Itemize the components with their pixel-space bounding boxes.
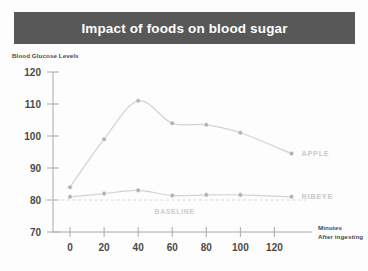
x-axis-tick-label: 120 [266, 242, 283, 253]
data-point [238, 131, 243, 136]
series-apple [68, 99, 294, 190]
x-axis-tick-label: 20 [99, 242, 111, 253]
data-point [170, 193, 175, 198]
page-title: Impact of foods on blood sugar [81, 21, 287, 36]
data-point [136, 99, 141, 104]
data-series-group [68, 99, 294, 200]
x-axis-title-line1: Minutes [318, 224, 343, 231]
y-axis-tick-label: 100 [24, 131, 41, 142]
data-point [170, 121, 175, 126]
data-point [102, 137, 107, 142]
y-axis-title: Blood Glucose Levels [12, 52, 79, 59]
series-ribeye [68, 188, 294, 199]
data-point [68, 185, 73, 190]
y-axis-tick-label: 120 [24, 67, 41, 78]
data-point [289, 151, 294, 156]
data-point [238, 193, 243, 198]
series-line [70, 101, 291, 188]
line-chart: 708090100110120020406080100120 Blood Glu… [0, 44, 368, 271]
x-axis-tick-label: 80 [201, 242, 213, 253]
x-axis-tick-label: 100 [232, 242, 249, 253]
data-point [102, 191, 107, 196]
series-label-ribeye: RIBEYE [301, 192, 333, 201]
data-point [204, 123, 209, 128]
x-axis-tick-label: 60 [167, 242, 179, 253]
y-axis-tick-label: 110 [25, 99, 42, 110]
chart-plot-area: 708090100110120020406080100120 Blood Glu… [0, 44, 368, 271]
data-point [68, 195, 73, 200]
data-point [136, 188, 141, 193]
series-label-apple: APPLE [301, 149, 329, 158]
data-point [204, 193, 209, 198]
data-point [289, 195, 294, 200]
baseline-label: BASELINE [155, 208, 195, 215]
x-axis-tick-label: 40 [133, 242, 145, 253]
x-axis-tick-label: 0 [67, 242, 73, 253]
chart-card: Impact of foods on blood sugar 708090100… [0, 0, 368, 271]
chart-labels: Blood Glucose LevelsMinutesAfter ingesti… [12, 52, 363, 240]
chart-axes: 708090100110120020406080100120 [24, 67, 312, 253]
y-axis-tick-label: 90 [30, 163, 42, 174]
chart-title-banner: Impact of foods on blood sugar [14, 12, 355, 44]
y-axis-tick-label: 70 [30, 227, 42, 238]
x-axis-title-line2: After ingesting [318, 233, 363, 240]
y-axis-tick-label: 80 [30, 195, 42, 206]
